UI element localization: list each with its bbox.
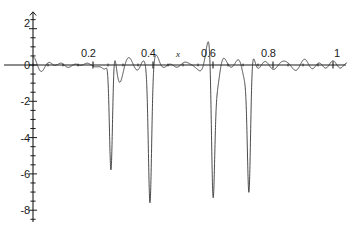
plot-svg <box>0 0 349 231</box>
waveform-polyline <box>33 42 347 203</box>
x-tick-label-0-4: 0.4 <box>141 48 156 59</box>
x-tick-label-1: 1 <box>334 48 340 59</box>
axes-group <box>4 12 346 222</box>
x-tick-label-0-2: 0.2 <box>81 48 96 59</box>
y-tick-label-2: 2 <box>18 18 30 29</box>
y-tick-label-minus8: -8 <box>13 205 30 216</box>
x-tick-label-0-8: 0.8 <box>261 48 276 59</box>
y-tick-label-minus2: -2 <box>13 96 30 107</box>
x-axis-label: x <box>176 50 180 59</box>
x-tick-label-0-6: 0.6 <box>201 48 216 59</box>
y-tick-label-0: 0 <box>18 60 30 71</box>
plot-canvas: 2 0 -2 -4 -6 -8 0.2 0.4 0.6 0.8 1 x <box>0 0 349 231</box>
waveform-curve <box>33 42 347 203</box>
y-tick-label-minus4: -4 <box>13 133 30 144</box>
y-tick-label-minus6: -6 <box>13 169 30 180</box>
